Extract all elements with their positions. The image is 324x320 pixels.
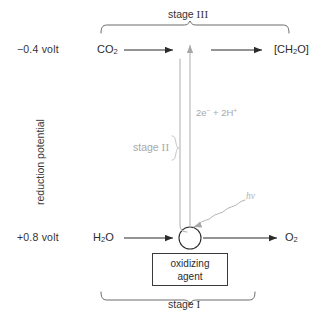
oxidizing-agent-box: oxidizing agent bbox=[152, 253, 228, 286]
product-prefix: [CH bbox=[274, 43, 293, 55]
stage-one-numeral: I bbox=[197, 298, 201, 310]
stage-three-brace bbox=[101, 21, 289, 33]
stage-two-brace bbox=[172, 136, 179, 160]
species-formaldehyde-product: [CH2O] bbox=[274, 44, 309, 56]
water-suffix: O bbox=[105, 231, 114, 243]
stage-two-numeral: II bbox=[162, 141, 170, 153]
species-co2-subscript: 2 bbox=[114, 47, 118, 56]
oxygen-subscript: 2 bbox=[294, 235, 298, 244]
stage-two-word: stage bbox=[133, 141, 159, 153]
stage-three-caption: stage III bbox=[168, 9, 209, 20]
stage-one-word: stage bbox=[168, 298, 194, 310]
electron-proton-joiner: + 2H bbox=[210, 107, 233, 118]
stage-three-word: stage bbox=[168, 8, 194, 20]
oxidizing-agent-line2: agent bbox=[153, 270, 227, 283]
potential-top-label: −0.4 volt bbox=[17, 44, 59, 55]
oxygen-prefix: O bbox=[285, 231, 294, 243]
water-prefix: H bbox=[93, 231, 101, 243]
species-oxygen: O2 bbox=[285, 232, 298, 244]
stage-two-stem-left bbox=[180, 59, 187, 232]
proton-charge: + bbox=[233, 107, 237, 114]
stage-three-numeral: III bbox=[197, 8, 209, 20]
species-co2-text: CO bbox=[97, 43, 114, 55]
diagram-canvas: reduction potential −0.4 volt +0.8 volt … bbox=[0, 0, 324, 320]
species-carbon-dioxide: CO2 bbox=[97, 44, 118, 56]
species-water: H2O bbox=[93, 232, 114, 244]
electron-count: 2e bbox=[196, 107, 207, 118]
product-suffix: O] bbox=[297, 43, 309, 55]
axis-title-reduction-potential: reduction potential bbox=[34, 119, 46, 205]
stage-one-caption: stage I bbox=[168, 299, 201, 310]
potential-bottom-label: +0.8 volt bbox=[17, 232, 59, 243]
stage-two-caption: stage II bbox=[133, 142, 170, 153]
photon-label: hν bbox=[246, 192, 255, 202]
photon-wavy-arrow bbox=[194, 200, 245, 227]
electron-proton-annotation: 2e− + 2H+ bbox=[196, 108, 237, 118]
oxidizing-agent-line1: oxidizing bbox=[153, 257, 227, 270]
